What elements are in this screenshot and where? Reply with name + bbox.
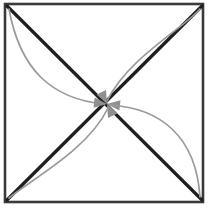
figure-canvas [0, 0, 217, 214]
converging-arrows-diagram [0, 0, 217, 214]
